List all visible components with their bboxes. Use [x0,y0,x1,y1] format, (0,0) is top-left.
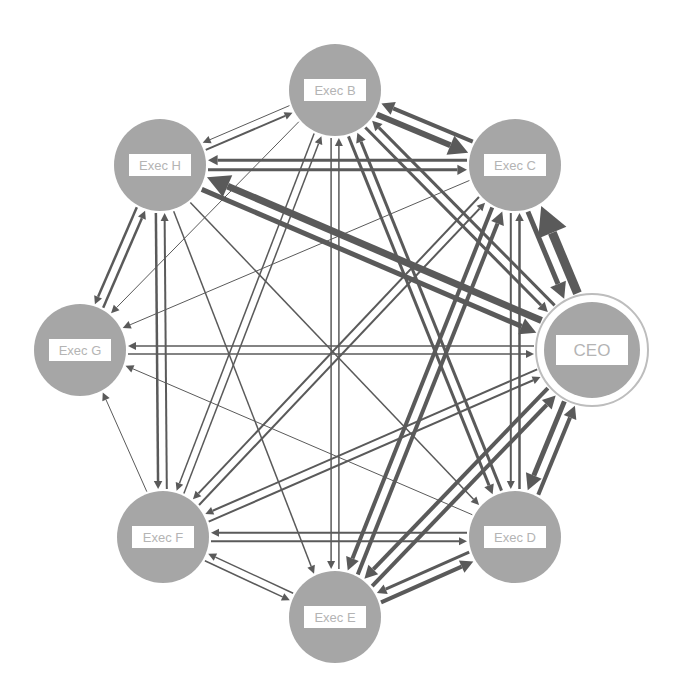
edge-line [206,116,285,150]
edge-line [98,207,137,297]
edge-line [205,561,283,597]
edge-line [165,221,167,489]
arrowhead-icon [161,213,169,221]
edge-e-to-f [208,553,293,593]
node-label: Exec C [494,158,536,173]
node-exec-c[interactable]: Exec C [469,119,561,211]
edge-line [348,136,489,485]
arrowhead-icon [128,342,136,350]
edge-h-to-g [94,207,137,304]
edge-line [210,106,289,140]
edge-h-to-f [154,213,162,489]
node-exec-f[interactable]: Exec F [117,491,209,583]
node-label: CEO [574,341,611,360]
edge-line [215,557,293,593]
arrowhead-icon [459,537,467,545]
edge-b-to-d [348,136,493,494]
arrowhead-icon [457,165,467,175]
node-label: Exec F [143,530,184,545]
edge-h-to-c [208,165,467,175]
edge-h-to-b [206,112,293,150]
edge-line [156,213,158,481]
arrowhead-icon [507,481,515,489]
node-label: Exec B [314,83,355,98]
edge-e-to-d [381,560,473,602]
node-exec-g[interactable]: Exec G [34,304,126,396]
edge-d-to-c [515,213,524,489]
node-exec-e[interactable]: Exec E [289,571,381,663]
edge-b-to-h [203,106,290,144]
node-exec-b[interactable]: Exec B [289,44,381,136]
edge-f-to-e [205,561,290,601]
edge-line [228,186,542,320]
arrowhead-icon [211,529,219,537]
edge-g-to-h [103,211,146,308]
node-ceo[interactable]: CEO [536,294,648,406]
node-exec-d[interactable]: Exec D [469,491,561,583]
edge-f-to-h [161,213,169,489]
node-label: Exec E [314,610,356,625]
arrowhead-icon [335,138,343,146]
edge-c-to-h [208,155,467,165]
edge-line [103,218,142,308]
arrowhead-icon [526,350,534,358]
edge-line [106,400,147,492]
node-label: Exec G [59,343,102,358]
arrowhead-icon [154,481,162,489]
node-label: Exec H [139,158,181,173]
executive-network-diagram: Exec B Exec C CEO Exec D Exec E Exec F [0,0,684,698]
arrowhead-icon [208,155,218,165]
arrowhead-icon [515,213,524,221]
arrowhead-icon [327,561,335,569]
node-label: Exec D [494,530,536,545]
edge-line [377,115,451,146]
edge-f-to-g [102,392,146,491]
node-exec-h[interactable]: Exec H [114,119,206,211]
edge-d-to-e [377,552,469,594]
